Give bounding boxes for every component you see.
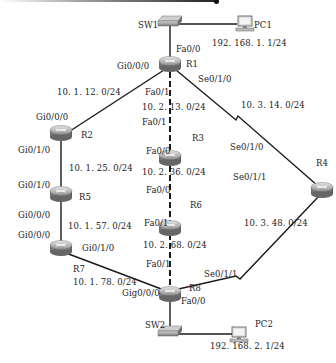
sw2-label: SW2 — [145, 321, 165, 330]
r8-label: R8 — [189, 284, 201, 293]
net-10-1-25-label: 10. 1. 25. 0/24 — [69, 164, 133, 173]
r2-label: R2 — [81, 131, 93, 140]
r7-gi010-label: Gi0/1/0 — [82, 244, 114, 253]
switch-sw1-icon[interactable] — [158, 16, 182, 26]
r7-label: R7 — [73, 265, 85, 274]
sw1-label: SW1 — [138, 21, 158, 30]
r2-gi000-label: Gi0/0/0 — [36, 113, 68, 122]
r1-fa00-label: Fa0/0 — [176, 45, 201, 54]
net-10-2-13-label: 10. 2. 13. 0/24 — [142, 103, 206, 112]
r5-label: R5 — [79, 193, 91, 202]
r1-fa01-label: Fa0/1 — [145, 88, 170, 97]
r8-gig000-label: Gig0/0/0 — [122, 289, 160, 298]
r6-label: R6 — [190, 201, 202, 210]
pc2-ip-label: 192. 168. 2. 1/24 — [210, 342, 285, 351]
r4-se010-label: Se0/1/0 — [230, 143, 264, 152]
r6-fa00-label: Fa0/0 — [146, 186, 171, 195]
router-r7-icon[interactable] — [50, 241, 72, 257]
net-10-1-78-label: 10. 1. 78. 0/24 — [73, 278, 137, 287]
net-10-2-36-label: 10. 2. 36. 0/24 — [142, 168, 206, 177]
net-10-3-14-label: 10. 3. 14. 0/24 — [241, 101, 305, 110]
r1-se010-label: Se0/1/0 — [198, 75, 232, 84]
r3-fa01-label: Fa0/1 — [142, 118, 167, 127]
pc2-label: PC2 — [255, 320, 273, 329]
r3-label: R3 — [192, 134, 204, 143]
r8-fa01-label: Fa0/1 — [146, 260, 171, 269]
r5-gi010-label: Gi0/1/0 — [18, 181, 50, 190]
router-r1-icon[interactable] — [159, 57, 181, 73]
r8-se011-label: Se0/1/1 — [204, 270, 238, 279]
pc1-label: PC1 — [254, 21, 272, 30]
r5-gi000-label: Gi0/0/0 — [18, 211, 50, 220]
r6-fa01-label: Fa0/1 — [144, 219, 169, 228]
router-r5-icon[interactable] — [50, 187, 72, 203]
r1-label: R1 — [186, 60, 198, 69]
pc1-icon[interactable] — [236, 16, 254, 31]
r3-fa00-label: Fa0/0 — [146, 147, 171, 156]
net-10-3-48-label: 10. 3. 48. 0/24 — [244, 219, 308, 228]
router-r4-icon[interactable] — [311, 183, 333, 199]
r2-gi010-label: Gi0/1/0 — [18, 146, 50, 155]
net-10-1-12-label: 10. 1. 12. 0/24 — [57, 88, 121, 97]
r4-label: R4 — [316, 159, 328, 168]
topology-canvas — [0, 0, 336, 363]
router-r2-icon[interactable] — [50, 126, 72, 142]
router-r8-icon[interactable] — [159, 287, 181, 303]
r4-se011-label: Se0/1/1 — [233, 173, 267, 182]
r8-fa00-label: Fa0/0 — [181, 297, 206, 306]
net-10-2-68-label: 10. 2. 68. 0/24 — [143, 241, 207, 250]
pc2-icon[interactable] — [230, 327, 248, 342]
pc1-ip-label: 192. 168. 1. 1/24 — [212, 39, 287, 48]
r7-gi000-label: Gi0/0/0 — [18, 231, 50, 240]
net-10-1-57-label: 10. 1. 57. 0/24 — [68, 222, 132, 231]
r1-gi000-label: Gi0/0/0 — [117, 62, 149, 71]
